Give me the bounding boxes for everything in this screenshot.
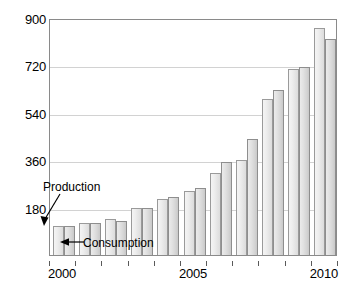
x-tick-label: 2010	[310, 267, 338, 280]
bar-production-2006	[210, 173, 221, 255]
bar-chart: 180360540720900 200020052010 Production …	[0, 0, 347, 285]
y-tick-label: 540	[2, 108, 46, 121]
y-axis: 180360540720900	[0, 0, 46, 285]
y-tick-label: 900	[2, 13, 46, 26]
bar-consumption-2010	[325, 39, 336, 255]
plot-area	[49, 19, 337, 256]
x-tick	[258, 261, 259, 266]
bar-production-2007	[236, 160, 247, 255]
bar-consumption-2004	[168, 197, 179, 255]
x-tick	[101, 261, 102, 266]
x-tick	[154, 261, 155, 266]
bar-production-2004	[157, 199, 168, 255]
bar-consumption-2007	[247, 139, 258, 255]
bar-consumption-2008	[273, 90, 284, 255]
bar-production-2009	[288, 69, 299, 255]
y-tick-label: 720	[2, 60, 46, 73]
y-tick-label: 360	[2, 155, 46, 168]
bar-consumption-2009	[299, 67, 310, 255]
bar-consumption-2005	[195, 188, 206, 255]
bar-production-2010	[314, 28, 325, 255]
x-tick-label: 2005	[179, 267, 207, 280]
annotation-consumption-arrow-icon	[60, 236, 86, 248]
gridline	[50, 67, 336, 68]
x-tick	[232, 261, 233, 266]
bar-consumption-2006	[221, 162, 232, 255]
x-tick-label: 2000	[48, 267, 76, 280]
bar-production-2008	[262, 99, 273, 255]
bar-production-2005	[184, 191, 195, 255]
annotation-production-arrow-icon	[40, 192, 66, 232]
x-axis: 200020052010	[0, 258, 347, 280]
x-tick	[285, 261, 286, 266]
annotation-consumption-label: Consumption	[83, 237, 154, 249]
x-tick	[128, 261, 129, 266]
